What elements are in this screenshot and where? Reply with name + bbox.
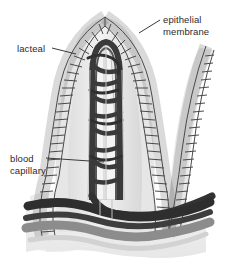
capillary-network (88, 42, 124, 200)
epithelial-leader (139, 20, 160, 33)
label-epithelial-membrane: epithelialmembrane (163, 14, 209, 37)
label-blood-capillary: bloodcapillary (10, 153, 46, 176)
villus-illustration (0, 0, 233, 271)
label-lacteal: lacteal (17, 43, 45, 55)
label-epithelial-line1: epithelial (163, 14, 202, 25)
label-blood-line2: capillary (10, 165, 46, 176)
villus-diagram: epithelialmembrane lacteal bloodcapillar… (0, 0, 233, 271)
label-blood-line1: blood (10, 153, 34, 164)
label-epithelial-line2: membrane (163, 26, 209, 37)
